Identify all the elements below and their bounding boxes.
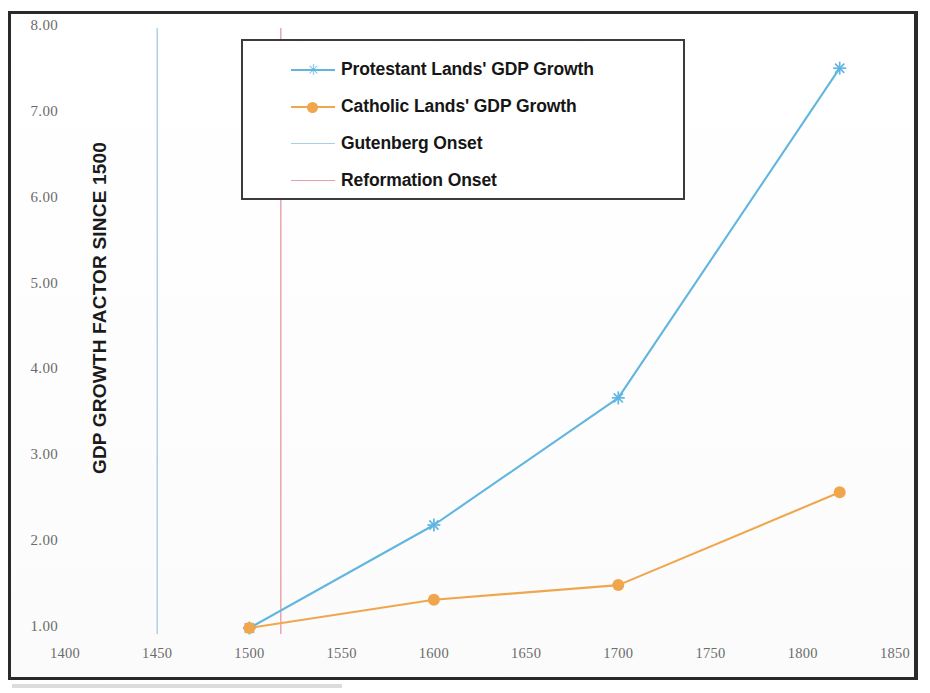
data-point-marker bbox=[427, 519, 440, 532]
series-line-1 bbox=[249, 492, 839, 628]
data-point-marker bbox=[833, 62, 846, 75]
legend-star-icon: ✳ bbox=[307, 64, 319, 76]
x-tick-label: 1550 bbox=[312, 645, 372, 662]
y-tick-label: 1.00 bbox=[2, 618, 58, 635]
x-tick-label: 1400 bbox=[35, 645, 95, 662]
data-point-marker bbox=[612, 579, 624, 591]
scan-edge-strip bbox=[12, 684, 342, 688]
legend-marker-icon bbox=[291, 98, 335, 116]
legend-entry-label: Protestant Lands' GDP Growth bbox=[341, 59, 594, 80]
y-tick-label: 8.00 bbox=[2, 17, 58, 34]
x-tick-label: 1500 bbox=[219, 645, 279, 662]
chart-legend: ✳Protestant Lands' GDP GrowthCatholic La… bbox=[241, 39, 685, 200]
data-point-marker bbox=[834, 486, 846, 498]
legend-entry-label: Reformation Onset bbox=[341, 170, 497, 191]
legend-entry[interactable]: ✳Protestant Lands' GDP Growth bbox=[243, 51, 683, 88]
x-tick-label: 1450 bbox=[127, 645, 187, 662]
legend-entry-label: Catholic Lands' GDP Growth bbox=[341, 96, 577, 117]
legend-marker-icon bbox=[291, 135, 335, 153]
chart-page: 1.002.003.004.005.006.007.008.00 1400145… bbox=[0, 0, 930, 693]
data-point-marker bbox=[428, 594, 440, 606]
legend-marker-icon bbox=[291, 172, 335, 190]
x-tick-label: 1700 bbox=[588, 645, 648, 662]
plot-area: 1.002.003.004.005.006.007.008.00 1400145… bbox=[0, 0, 930, 693]
y-tick-label: 2.00 bbox=[2, 532, 58, 549]
x-tick-label: 1850 bbox=[865, 645, 925, 662]
legend-marker-icon: ✳ bbox=[291, 61, 335, 79]
y-axis-title: GDP GROWTH FACTOR SINCE 1500 bbox=[89, 0, 113, 118]
x-tick-label: 1600 bbox=[404, 645, 464, 662]
legend-entry-label: Gutenberg Onset bbox=[341, 133, 482, 154]
data-point-marker bbox=[612, 391, 625, 404]
x-tick-label: 1650 bbox=[496, 645, 556, 662]
legend-circle-icon bbox=[307, 102, 318, 113]
y-tick-label: 5.00 bbox=[2, 275, 58, 292]
legend-entry[interactable]: Gutenberg Onset bbox=[243, 125, 683, 162]
y-tick-label: 6.00 bbox=[2, 189, 58, 206]
data-point-marker bbox=[243, 622, 255, 634]
y-tick-label: 4.00 bbox=[2, 360, 58, 377]
legend-entry[interactable]: Reformation Onset bbox=[243, 162, 683, 199]
y-tick-label: 3.00 bbox=[2, 446, 58, 463]
x-tick-label: 1800 bbox=[773, 645, 833, 662]
y-axis-title-text: GDP GROWTH FACTOR SINCE 1500 bbox=[89, 118, 111, 498]
y-tick-label: 7.00 bbox=[2, 103, 58, 120]
legend-entry[interactable]: Catholic Lands' GDP Growth bbox=[243, 88, 683, 125]
x-tick-label: 1750 bbox=[681, 645, 741, 662]
